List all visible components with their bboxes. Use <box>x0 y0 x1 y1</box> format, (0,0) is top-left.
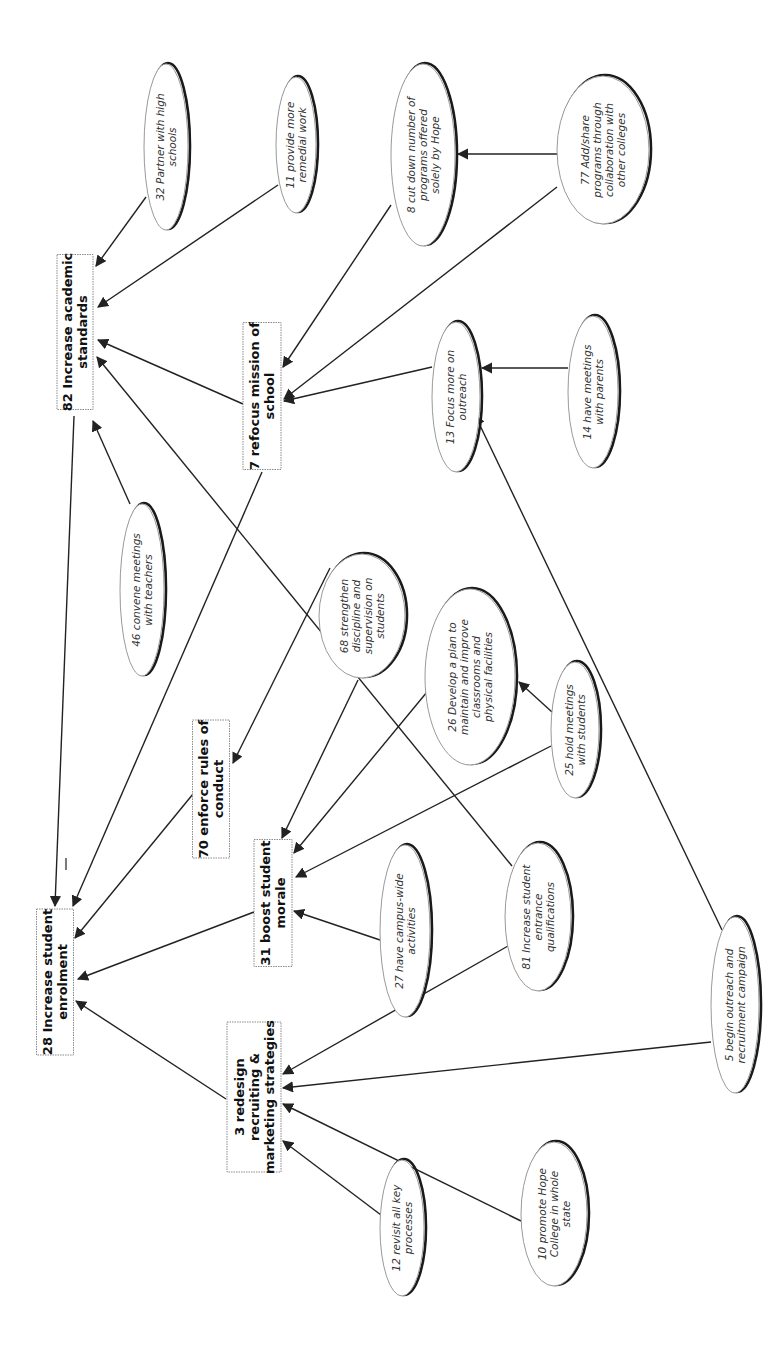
node-label-line: state <box>560 1201 572 1228</box>
edge-70-to-28 <box>75 794 193 938</box>
option-oval-8: 8 cut down number ofprograms offeredsole… <box>391 63 457 246</box>
node-label-line: 7 refocus mission of <box>247 322 262 470</box>
option-oval-25: 25 hold meetingswith students <box>551 661 601 798</box>
node-label-line: recruiting & <box>247 1053 262 1141</box>
node-label-line: 13 Focus more on <box>444 350 456 444</box>
node-label: 26 Develop a plan tomaintain and improve… <box>446 619 494 735</box>
option-oval-32: 32 Partner with highschools <box>144 63 190 230</box>
edge-8-to-7 <box>283 205 391 367</box>
node-label-line: with parents <box>593 359 605 425</box>
edge-68-to-70 <box>233 568 330 763</box>
goal-box-3: 3 redesignrecruiting &marketing strategi… <box>227 1020 281 1174</box>
node-label-line: 10 promote Hope <box>536 1168 548 1260</box>
node-label-line: 26 Develop a plan to <box>446 622 458 732</box>
node-label-line: discipline and <box>350 579 362 652</box>
node-label-line: entrance <box>532 894 544 941</box>
nodes-layer: 82 Increase academicstandards7 refocus m… <box>37 63 762 1296</box>
node-label-line: programs offered <box>417 109 429 202</box>
node-label-line: programs through <box>591 102 603 198</box>
node-label-line: 27 have campus-wide <box>393 873 405 988</box>
node-label-line: remedial work <box>296 107 308 183</box>
option-oval-27: 27 have campus-wideactivities <box>380 844 432 1017</box>
node-label-line: enrolment <box>55 944 70 1020</box>
node-label-line: physical facilities <box>482 631 494 723</box>
node-label-line: supervision on <box>362 578 374 655</box>
edge-25-to-31 <box>296 746 551 877</box>
node-label-line: 68 strengthen <box>338 579 350 653</box>
node-label: 25 hold meetingswith students <box>563 684 587 776</box>
option-oval-14: 14 have meetingswith parents <box>568 315 620 468</box>
goal-box-82: 82 Increase academicstandards <box>57 253 93 412</box>
node-label-line: 14 have meetings <box>581 344 593 439</box>
edge-31-to-28 <box>78 912 254 979</box>
edge-13-to-7 <box>284 367 432 401</box>
node-label-line: activities <box>405 907 417 955</box>
node-label-line: school <box>262 372 277 419</box>
edge-32-to-82 <box>96 197 146 266</box>
option-oval-13: 13 Focus more onoutreach <box>432 321 482 472</box>
cause-map-diagram: 82 Increase academicstandards7 refocus m… <box>0 0 778 1352</box>
node-label-line: other colleges <box>615 112 627 187</box>
node-label-line: College in whole <box>548 1171 560 1257</box>
node-label-line: 46 convene meetings <box>130 533 142 647</box>
option-oval-46: 46 convene meetingswith teachers <box>120 503 166 676</box>
edges-layer <box>55 154 722 1221</box>
option-oval-12: 12 revisit all keyprocesses <box>380 1159 426 1296</box>
node-label-line: marketing strategies <box>262 1020 277 1174</box>
node-label-line: classrooms and <box>470 636 482 718</box>
node-label-line: 28 Increase student <box>40 909 55 1055</box>
option-oval-11: 11 provide moreremedial work <box>276 76 318 213</box>
node-label: 11 provide moreremedial work <box>284 101 308 188</box>
node-label-line: recruitment campaign <box>735 946 747 1063</box>
node-label-line: schools <box>166 127 178 167</box>
edge-68-to-31 <box>282 680 358 838</box>
goal-box-28: 28 Increase studentenrolment <box>37 909 74 1055</box>
node-label-line: 12 revisit all key <box>390 1184 402 1272</box>
option-oval-26: 26 Develop a plan tomaintain and improve… <box>425 588 517 765</box>
node-label-line: with teachers <box>142 554 154 626</box>
edge-5-to-3 <box>283 1042 711 1088</box>
node-label-line: 31 boost student <box>258 840 273 965</box>
node-label-line: collaboration with <box>603 103 615 197</box>
option-oval-5: 5 begin outreach andrecruitment campaign <box>711 916 761 1093</box>
edge-11-to-82 <box>98 185 278 307</box>
edge-7-to-28 <box>73 472 262 906</box>
option-oval-81: 81 Increase studententrancequalification… <box>505 842 573 991</box>
edge-7-to-82 <box>98 340 243 404</box>
node-label-line: 8 cut down number of <box>405 95 417 213</box>
option-oval-77: 77 Add/shareprograms throughcollaboratio… <box>557 75 651 224</box>
node-label-line: 77 Add/share <box>579 115 591 185</box>
edge-27-to-31 <box>294 911 380 940</box>
edge-46-to-82 <box>93 421 130 504</box>
node-label-line: conduct <box>211 760 226 818</box>
node-label-line: solely by Hope <box>429 116 441 193</box>
node-label-line: outreach <box>456 374 468 421</box>
goal-box-31: 31 boost studentmorale <box>254 840 292 967</box>
node-label-line: 32 Partner with high <box>154 93 166 200</box>
node-label-line: 3 redesign <box>232 1058 247 1136</box>
edge-12-to-3 <box>283 1141 381 1215</box>
node-label-line: with students <box>575 694 587 766</box>
node-label-line: 81 Increase student <box>520 864 532 970</box>
option-oval-68: 68 strengthendiscipline andsupervision o… <box>319 553 407 678</box>
node-label-line: qualifications <box>544 881 556 952</box>
node-label-line: processes <box>402 1201 414 1255</box>
goal-box-7: 7 refocus mission ofschool <box>243 322 281 470</box>
node-label-line: students <box>374 593 386 639</box>
node-label-line: morale <box>273 877 288 928</box>
node-label-line: 11 provide more <box>284 101 296 188</box>
node-label-line: maintain and improve <box>458 619 470 735</box>
goal-box-70: 70 enforce rules ofconduct <box>193 719 230 858</box>
edge-3-to-28 <box>76 1001 226 1099</box>
edge-25-to-26 <box>519 682 552 712</box>
edge-82-to-28 <box>55 416 74 906</box>
node-label-line: 82 Increase academic <box>60 253 75 412</box>
node-label: 5 begin outreach andrecruitment campaign <box>723 946 747 1063</box>
node-label-line: 25 hold meetings <box>563 684 575 776</box>
node-label: 77 Add/shareprograms throughcollaboratio… <box>579 102 627 198</box>
node-label-line: standards <box>75 295 90 369</box>
node-label-line: 70 enforce rules of <box>196 719 211 858</box>
node-label-line: 5 begin outreach and <box>723 948 735 1061</box>
option-oval-10: 10 promote HopeCollege in wholestate <box>521 1141 589 1286</box>
